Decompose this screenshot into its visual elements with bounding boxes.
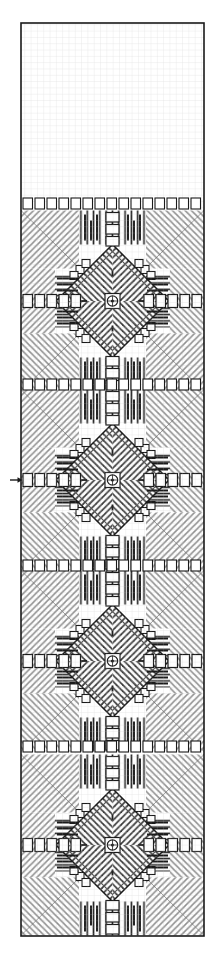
chart-body <box>21 23 204 936</box>
counting-grid <box>21 23 204 936</box>
needlework-chart-page: Embroidery Band Pattern Chart <box>0 0 222 966</box>
pattern-chart-canvas <box>0 0 222 966</box>
